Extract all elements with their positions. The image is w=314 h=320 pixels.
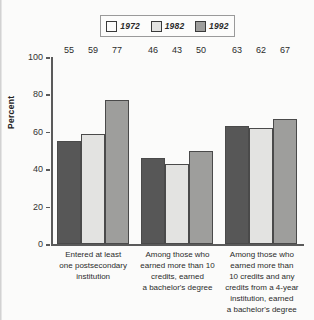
- bar-1992[interactable]: [273, 119, 297, 244]
- bar-value: 59: [88, 45, 98, 55]
- chart-legend: 1972 1982 1992: [100, 15, 235, 37]
- y-tick-label-0: 0: [38, 239, 43, 249]
- category-label-1: Entered at least one postsecondary insti…: [51, 249, 135, 315]
- plot-area: 100 80 60 40 20 0 55 59 77: [51, 57, 303, 244]
- bar-slot: 62: [249, 57, 273, 244]
- y-tick-0: [46, 244, 50, 246]
- bar-groups: 55 59 77 46 43: [51, 57, 303, 244]
- legend-swatch-1972: [106, 21, 117, 32]
- bar-slot: 55: [57, 57, 81, 244]
- category-line: a bachelor's degree: [137, 282, 217, 293]
- y-tick-20: [46, 207, 50, 209]
- bar-slot: 63: [225, 57, 249, 244]
- y-tick-100: [46, 57, 50, 59]
- page-edge-artifact: [0, 0, 2, 320]
- x-axis-line: [51, 244, 304, 246]
- y-tick-label-20: 20: [33, 202, 43, 212]
- category-line: one postsecondary: [53, 260, 133, 271]
- legend-item-1972: 1972: [106, 21, 140, 32]
- bar-1992[interactable]: [105, 100, 129, 244]
- bar-1972[interactable]: [57, 141, 81, 244]
- bar-slot: 59: [81, 57, 105, 244]
- bar-slot: 46: [141, 57, 165, 244]
- y-tick-label-60: 60: [33, 127, 43, 137]
- y-tick-60: [46, 132, 50, 134]
- category-line: earned more than 10: [137, 260, 217, 271]
- legend-label-1972: 1972: [120, 21, 140, 31]
- bar-1972[interactable]: [141, 158, 165, 244]
- category-line: institution, earned: [222, 293, 302, 304]
- bar-1982[interactable]: [81, 134, 105, 244]
- y-axis-title: Percent: [6, 96, 16, 129]
- category-line: 10 credits and any: [222, 271, 302, 282]
- category-line: Entered at least: [53, 249, 133, 260]
- y-tick-label-100: 100: [28, 52, 43, 62]
- bar-slot: 67: [273, 57, 297, 244]
- y-tick-label-40: 40: [33, 164, 43, 174]
- bar-value: 63: [232, 45, 242, 55]
- bar-value: 43: [172, 45, 182, 55]
- bar-slot: 50: [189, 57, 213, 244]
- legend-label-1992: 1992: [209, 21, 229, 31]
- legend-item-1992: 1992: [195, 21, 229, 32]
- bar-group-1: 55 59 77: [51, 57, 135, 244]
- legend-item-1982: 1982: [151, 21, 185, 32]
- category-line: institution: [53, 271, 133, 282]
- legend-label-1982: 1982: [165, 21, 185, 31]
- bar-slot: 43: [165, 57, 189, 244]
- bar-value: 55: [64, 45, 74, 55]
- bar-group-3: 63 62 67: [219, 57, 303, 244]
- chart-page: 1972 1982 1992 Percent 100 80 60 40 20 0: [0, 0, 314, 320]
- category-line: credits, earned: [137, 271, 217, 282]
- x-axis-category-labels: Entered at least one postsecondary insti…: [51, 249, 304, 315]
- y-tick-80: [46, 94, 50, 96]
- legend-swatch-1992: [195, 21, 206, 32]
- bar-slot: 77: [105, 57, 129, 244]
- legend-swatch-1982: [151, 21, 162, 32]
- y-tick-40: [46, 169, 50, 171]
- category-line: a bachelor's degree: [222, 304, 302, 315]
- bar-value: 77: [112, 45, 122, 55]
- bar-1972[interactable]: [225, 126, 249, 244]
- bar-value: 62: [256, 45, 266, 55]
- bar-1992[interactable]: [189, 151, 213, 245]
- bar-1982[interactable]: [249, 128, 273, 244]
- category-label-3: Among those who earned more than 10 cred…: [220, 249, 304, 315]
- bar-1982[interactable]: [165, 164, 189, 244]
- category-line: credits from a 4-year: [222, 282, 302, 293]
- bar-value: 46: [148, 45, 158, 55]
- category-line: earned more than: [222, 260, 302, 271]
- category-line: Among those who: [137, 249, 217, 260]
- category-line: Among those who: [222, 249, 302, 260]
- y-tick-label-80: 80: [33, 89, 43, 99]
- bar-value: 67: [280, 45, 290, 55]
- bar-value: 50: [196, 45, 206, 55]
- category-label-2: Among those who earned more than 10 cred…: [135, 249, 219, 315]
- bar-group-2: 46 43 50: [135, 57, 219, 244]
